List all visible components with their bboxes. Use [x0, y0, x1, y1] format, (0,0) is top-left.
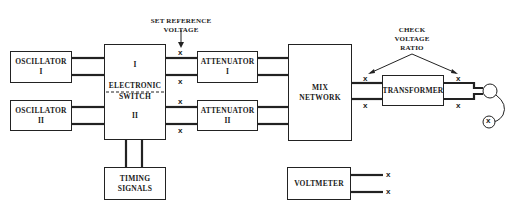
test-point-transformer-in-bottom: x: [363, 102, 367, 110]
test-point-att2-top: x: [178, 98, 182, 106]
test-point-transformer-out-bottom: x: [456, 102, 460, 110]
oscillator-2-number: II: [38, 116, 44, 126]
signals-label: SIGNALS: [118, 184, 152, 194]
test-point-att2-bottom: x: [178, 127, 182, 135]
attenuator-1-number: I: [226, 67, 229, 77]
attenuator-1-block: ATTENUATOR I: [197, 51, 258, 83]
test-point-att1-bottom: x: [178, 78, 182, 86]
oscillator-1-block: OSCILLATOR I: [10, 51, 72, 83]
set-reference-voltage-annotation: SET REFERENCE VOLTAGE: [140, 17, 222, 35]
test-point-transformer-in-top: x: [363, 75, 367, 83]
voltmeter-label: VOLTMETER: [294, 179, 344, 189]
oscillator-1-label: OSCILLATOR: [15, 57, 66, 67]
switch-label-switch: SWITCH: [105, 92, 165, 102]
voltmeter-block: VOLTMETER: [287, 167, 351, 200]
oscillator-2-label: OSCILLATOR: [15, 106, 66, 116]
oscillator-2-block: OSCILLATOR II: [10, 100, 72, 131]
attenuator-2-block: ATTENUATOR II: [197, 100, 258, 131]
test-point-att1-top: x: [178, 49, 182, 57]
switch-channel-1: I: [105, 60, 165, 70]
timing-signals-block: TIMING SIGNALS: [104, 167, 166, 200]
attenuator-2-label: ATTENUATOR: [201, 106, 255, 116]
mix-network-label-1: MIX: [312, 83, 328, 93]
voltmeter-probe-1: x: [386, 171, 390, 179]
set-reference-line-1: SET REFERENCE: [140, 17, 222, 26]
transformer-label: TRANSFORMER: [383, 86, 444, 96]
switch-channel-2: II: [105, 111, 165, 121]
mix-network-label-2: NETWORK: [299, 93, 340, 103]
earphone-test-point: x: [486, 117, 490, 125]
attenuator-1-label: ATTENUATOR: [201, 57, 255, 67]
mix-network-block: MIX NETWORK: [288, 44, 352, 141]
check-ratio-line-3: RATIO: [382, 44, 442, 53]
check-ratio-line-2: VOLTAGE: [382, 35, 442, 44]
transformer-block: TRANSFORMER: [382, 75, 444, 106]
set-reference-line-2: VOLTAGE: [140, 26, 222, 35]
check-voltage-ratio-annotation: CHECK VOLTAGE RATIO: [382, 26, 442, 53]
timing-label: TIMING: [120, 174, 150, 184]
voltmeter-probe-2: x: [386, 188, 390, 196]
oscillator-1-number: I: [39, 67, 42, 77]
test-point-transformer-out-top: x: [456, 75, 460, 83]
check-ratio-line-1: CHECK: [382, 26, 442, 35]
switch-label-electronic: ELECTRONIC: [105, 81, 165, 91]
electronic-switch-block: I ELECTRONIC SWITCH II: [104, 44, 166, 140]
attenuator-2-number: II: [224, 116, 230, 126]
